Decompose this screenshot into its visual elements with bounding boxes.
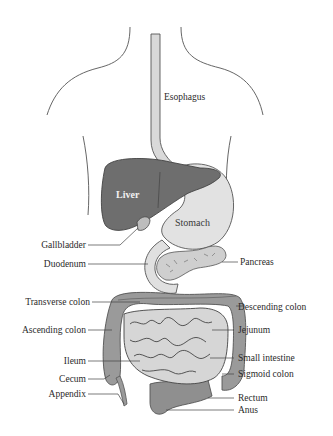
leader-appendix <box>88 394 124 404</box>
label-rectum: Rectum <box>238 394 268 404</box>
small-intestine <box>124 308 228 384</box>
label-esophagus: Esophagus <box>164 93 205 103</box>
digestive-system-diagram: Liver Stomach Esophagus Pancreas Descend… <box>0 0 333 436</box>
label-ileum: Ileum <box>64 357 86 367</box>
body-outline-left-shoulder <box>47 27 130 115</box>
rectum <box>150 380 212 414</box>
pancreas <box>157 246 226 280</box>
label-anus: Anus <box>238 406 258 416</box>
label-sigmoid-colon: Sigmoid colon <box>238 370 294 380</box>
label-jejunum: Jejunum <box>238 326 270 336</box>
label-ascending-colon: Ascending colon <box>22 326 86 336</box>
appendix <box>116 376 127 406</box>
label-duodenum: Duodenum <box>44 260 86 270</box>
body-outline-left-side <box>83 136 89 215</box>
label-liver: Liver <box>116 190 139 200</box>
label-transverse-colon: Transverse colon <box>25 298 90 308</box>
label-descending-colon: Descending colon <box>238 303 306 313</box>
label-pancreas: Pancreas <box>240 258 274 268</box>
label-appendix: Appendix <box>49 390 86 400</box>
esophagus <box>151 34 178 172</box>
label-stomach: Stomach <box>175 218 210 228</box>
label-small-intestine: Small intestine <box>238 354 295 364</box>
leader-gallbladder <box>88 228 138 245</box>
label-gallbladder: Gallbladder <box>41 241 86 251</box>
label-cecum: Cecum <box>59 375 86 385</box>
